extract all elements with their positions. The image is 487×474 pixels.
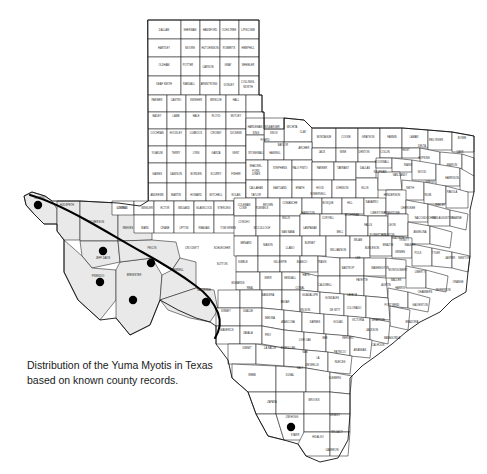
record-dot-presidio[interactable]: Presidio [96,278,104,286]
county-label: HOCKLEY [170,131,183,135]
county-label: HOWARD [190,193,202,197]
county-martin [167,183,186,201]
county-label: BANDERA [262,293,275,297]
record-dot-marker[interactable]: Starr [287,423,295,431]
record-dot-marker[interactable]: Pecos [147,259,155,267]
county-label: DALLAS [360,166,370,170]
county-cell [218,290,240,308]
county-label: STARR [291,433,300,437]
county-label: FISHER [231,172,241,176]
county-label: GARZA [212,151,221,155]
record-dot-brewster[interactable]: Brewster [129,296,137,304]
county-label: SHACKEL- [250,164,263,168]
county-label: LA [316,356,319,360]
county-label: GREGG [425,180,435,184]
record-dot-marker[interactable]: Val Verde [202,298,210,306]
county-label: JACK [319,150,326,154]
county-cell [292,160,312,180]
county-label: PANOLA [447,190,458,194]
county-label: HALE [193,114,200,118]
county-cell [268,160,292,180]
record-dot-marker[interactable]: Brewster [129,296,137,304]
county-label: LIBERTY [415,270,426,274]
county-cell [234,236,258,256]
county-label: CAMERON [325,448,338,452]
county-label: GALVESTON [412,303,428,307]
county-label: SWISHER [190,98,202,102]
county-label: CHEROKEE [401,206,416,210]
record-dot-marker[interactable]: Jeff Davis [99,247,107,255]
county-label: WARD [141,226,149,230]
county-cell [320,292,344,316]
county-label: GRAYSON [362,135,375,139]
county-cell [304,414,330,432]
county-label: HASKELL [269,151,281,155]
record-dot-marker[interactable]: El Paso [34,201,42,209]
county-label: CHAMBERS [418,290,433,294]
county-label: RAINS [404,163,412,167]
county-label: DELTA [418,144,426,148]
county-label: MCLENNAN [345,213,360,217]
county-childress [246,95,262,112]
county-label: LAMPASAS [303,226,317,230]
texas-county-map: DALLAMSHERMANHANSFORDOCHILTREELIPSCOMBHA… [0,0,487,474]
county-cell [240,326,262,344]
county-label: SAN [302,350,307,354]
county-label: BLANCO [297,260,308,264]
record-dot-val-verde[interactable]: Val Verde [202,298,210,306]
county-label: SHELBY [435,203,445,207]
county-label: WILLIAMSON [330,248,346,252]
county-label: SABINE [452,216,462,220]
county-cell [240,290,262,308]
county-cell [300,214,320,236]
county-label: FRIO [265,333,271,337]
county-label: MIDLAND [178,206,190,210]
county-label: DUVAL [286,373,295,377]
county-howard [186,183,206,201]
county-label: LOVING2 [116,206,128,210]
county-cell [260,272,282,290]
county-label: LEON [388,223,395,227]
county-cell [436,164,460,186]
county-label: WASHINGTON [371,266,389,270]
record-dot-jeff-davis[interactable]: Jeff Davis [99,247,107,255]
county-label: PARMER [152,98,163,102]
county-label: PATRICIO [334,350,346,354]
record-dot-pecos[interactable]: Pecos [147,259,155,267]
county-label: HALL [233,98,240,102]
figure-caption: Distribution of the Yuma Myotis in Texas… [27,358,287,388]
county-label: MONTAGUE [317,135,332,139]
county-label: VAL VERDE [197,288,211,292]
county-label: ZAPATA [267,400,277,404]
county-label: MAVERICK [220,328,234,332]
county-label: STERLING [218,206,231,210]
county-cell [412,244,432,266]
county-label: KENT [233,151,240,155]
county-briscoe [206,95,226,112]
county-label: BURLESON [365,246,379,250]
county-label: COCHRAN [150,131,163,135]
record-dot-marker[interactable]: Presidio [96,278,104,286]
county-label: WILBARGER [264,125,280,129]
county-label: HARTLEY [158,46,170,50]
county-label: BRAZORIA [405,320,418,324]
county-label: KINNEY [221,309,231,313]
county-label: ROCKWALL [375,160,390,164]
record-dot-starr[interactable]: Starr [287,423,295,431]
county-cell [406,266,426,288]
county-label: EL PASO [35,196,46,200]
county-cell [302,236,326,256]
county-label: LAVACA [347,293,357,297]
county-label: ANGELINA [413,230,426,234]
county-label: JEFF DAVIS [96,256,111,260]
county-cell [334,162,356,180]
county-label: WINKLER [141,206,153,210]
county-label: CONCHO [238,220,249,224]
record-dot-el-paso[interactable]: El Paso [34,201,42,209]
county-label: SAN SABA [282,230,295,234]
county-label: COMAL [295,286,305,290]
county-label: BAYLOR [278,143,288,147]
county-label: DIMMIT [242,346,252,350]
county-label: BRAZOS [383,243,394,247]
county-mitchell [206,183,226,201]
